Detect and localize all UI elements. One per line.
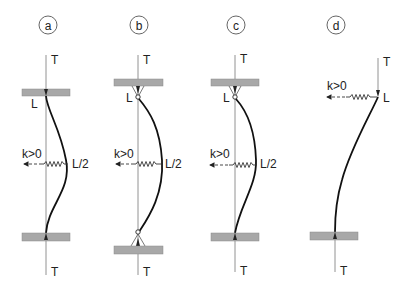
top-pin-plate: [114, 79, 163, 86]
top-node-marker: [376, 90, 380, 97]
panel-c: c T T L k>0 L/2: [210, 16, 277, 278]
spring-element: [327, 95, 377, 100]
tension-bottom-label: T: [240, 264, 248, 278]
tension-bottom-label: T: [340, 264, 348, 278]
bottom-node-marker: [136, 238, 140, 246]
top-pin-plate: [211, 79, 259, 86]
tension-top-label: T: [143, 53, 151, 67]
tension-top-label: T: [383, 55, 391, 69]
spring-position-label: L/2: [72, 157, 89, 171]
tension-bottom-label: T: [143, 265, 151, 279]
panel-d: d T L T k>0: [310, 16, 391, 278]
tension-bottom-label: T: [51, 265, 59, 279]
deflected-beam: [139, 99, 162, 232]
panel-a: a T T L k>0 L/2: [22, 16, 89, 279]
top-pin-icon: [136, 95, 140, 99]
top-node-marker: [233, 86, 237, 94]
spring-stiffness-label: k>0: [327, 79, 347, 93]
top-node-label: L: [223, 91, 230, 105]
top-node-label: L: [31, 97, 38, 111]
spring-element: [116, 162, 161, 167]
spring-icon: [229, 163, 256, 168]
spring-stiffness-label: k>0: [22, 147, 42, 161]
spring-icon: [40, 162, 68, 167]
tension-top-label: T: [240, 52, 248, 66]
panel-b: b T T L k>0 L/2: [114, 16, 182, 279]
panel-label: b: [136, 19, 143, 33]
top-node-label: L: [383, 91, 390, 105]
spring-position-label: L/2: [260, 157, 277, 171]
tension-top-label: T: [51, 53, 59, 67]
panel-label: c: [233, 19, 239, 33]
spring-element: [210, 163, 256, 168]
bottom-pin-plate: [114, 246, 163, 254]
panel-label: a: [45, 19, 52, 33]
panel-label: d: [333, 19, 340, 33]
top-node-marker: [136, 86, 140, 94]
beam-diagram: a T T L k>0 L/2 b T T L: [0, 0, 406, 287]
spring-icon: [346, 95, 377, 100]
spring-stiffness-label: k>0: [114, 147, 134, 161]
spring-stiffness-label: k>0: [210, 147, 230, 161]
top-node-label: L: [126, 91, 133, 105]
spring-position-label: L/2: [165, 157, 182, 171]
deflected-beam: [335, 97, 378, 232]
spring-icon: [132, 162, 161, 167]
